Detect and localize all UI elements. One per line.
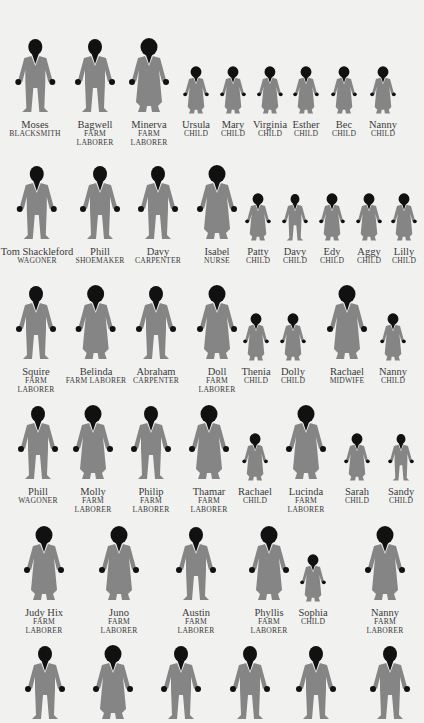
person-occupation: FARM LABORER [21,618,67,635]
person-card: EstherCHILD [290,65,322,139]
person-card: BagwellFARM LABORER [70,36,120,147]
person-card: RachaelCHILD [238,432,272,506]
man-silhouette-icon [11,283,61,363]
person-card: LillyCHILD [388,192,420,266]
person-card: PhillSHOEMAKER [75,163,125,266]
woman-silhouette-icon [360,524,410,604]
woman-silhouette-icon [239,432,271,483]
man-silhouette-icon [13,403,63,483]
woman-silhouette-icon [281,403,331,483]
person-card [225,643,275,723]
person-card [365,643,415,723]
person-occupation: CHILD [240,377,272,386]
person-card: SquireFARM LABORER [11,283,61,394]
person-card: IsabelNURSE [192,163,242,266]
person-occupation: FARM LABORER [362,618,408,635]
person-card: AggyCHILD [353,192,385,266]
woman-silhouette-icon [353,192,385,243]
person-card: VirginiaCHILD [253,65,287,139]
person-card: Tom ShacklefordWAGONER [1,163,73,266]
person-card: MaryCHILD [217,65,249,139]
person-occupation: FARM LABORER [173,618,219,635]
person-card [156,643,206,723]
person-card: PhilipFARM LABORER [126,403,176,514]
person-card [20,643,70,723]
person-card: Judy HixFARM LABORER [19,524,69,635]
person-occupation: FARM LABORER [66,377,127,386]
woman-silhouette-icon [184,403,234,483]
person-occupation: CHILD [367,130,399,139]
person-card: UrsulaCHILD [180,65,212,139]
woman-silhouette-icon [217,65,249,116]
person-occupation: CHILD [388,257,420,266]
person-card: SophiaCHILD [297,553,329,627]
person-card: MinervaFARM LABORER [124,36,174,147]
person-occupation: WAGONER [1,257,73,266]
person-occupation: CHILD [180,130,212,139]
person-card: TheniaCHILD [240,312,272,386]
woman-silhouette-icon [94,524,144,604]
man-silhouette-icon [12,163,62,243]
person-occupation: FARM LABORER [283,497,329,514]
person-occupation: FARM LABORER [128,497,174,514]
man-silhouette-icon [156,643,206,723]
person-card: AbrahamCARPENTER [131,283,181,386]
person-occupation: CHILD [316,257,348,266]
person-card: MosesBLACKSMITH [9,36,60,139]
person-occupation: FARM LABORER [194,377,240,394]
man-silhouette-icon [225,643,275,723]
woman-silhouette-icon [19,524,69,604]
woman-silhouette-icon [254,65,286,116]
person-card: AustinFARM LABORER [171,524,221,635]
person-occupation: CHILD [385,497,417,506]
man-silhouette-icon [365,643,415,723]
person-card: SandyCHILD [385,432,417,506]
person-card: ThamarFARM LABORER [184,403,234,514]
person-occupation: CHILD [279,257,311,266]
person-occupation: CHILD [217,130,249,139]
person-occupation: CHILD [277,377,309,386]
person-card: NannyFARM LABORER [360,524,410,635]
woman-silhouette-icon [124,36,174,116]
woman-silhouette-icon [367,65,399,116]
woman-silhouette-icon [180,65,212,116]
person-occupation: CHILD [297,618,329,627]
person-occupation: CARPENTER [131,377,181,386]
person-card: NannyCHILD [377,312,409,386]
person-occupation: FARM LABORER [126,130,172,147]
person-occupation: CHILD [253,130,287,139]
person-card: BelindaFARM LABORER [66,283,127,386]
woman-silhouette-icon [297,553,329,604]
man-silhouette-icon [75,163,125,243]
person-card: SarahCHILD [341,432,373,506]
woman-silhouette-icon [244,524,294,604]
person-occupation: FARM LABORER [13,377,59,394]
man-silhouette-icon [279,192,311,243]
woman-silhouette-icon [341,432,373,483]
man-silhouette-icon [171,524,221,604]
person-occupation: CHILD [242,257,274,266]
man-silhouette-icon [291,643,341,723]
person-card [88,643,138,723]
man-silhouette-icon [126,403,176,483]
person-occupation: CARPENTER [133,257,183,266]
person-card: DavyCHILD [279,192,311,266]
woman-silhouette-icon [377,312,409,363]
person-occupation: CHILD [290,130,322,139]
person-card: LucindaFARM LABORER [281,403,331,514]
person-occupation: FARM LABORER [70,497,116,514]
person-card: DollyCHILD [277,312,309,386]
man-silhouette-icon [385,432,417,483]
person-occupation: CHILD [328,130,360,139]
woman-silhouette-icon [192,283,242,363]
person-card: EdyCHILD [316,192,348,266]
person-card: JunoFARM LABORER [94,524,144,635]
person-card: DavyCARPENTER [133,163,183,266]
person-occupation: CHILD [238,497,272,506]
person-occupation: NURSE [192,257,242,266]
person-occupation: MIDWIFE [322,377,372,386]
man-silhouette-icon [10,36,60,116]
person-occupation: FARM LABORER [246,618,292,635]
person-card: PhillWAGONER [13,403,63,506]
person-occupation: SHOEMAKER [75,257,125,266]
